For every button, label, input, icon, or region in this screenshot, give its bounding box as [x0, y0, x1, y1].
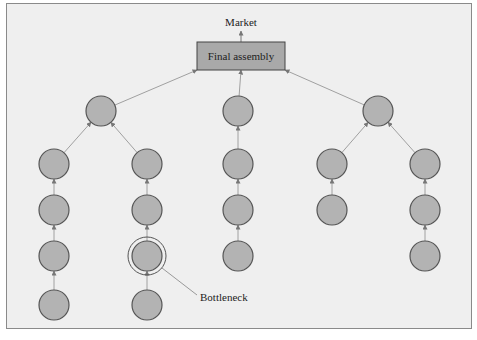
process-node	[223, 96, 253, 126]
edge-arrow	[388, 122, 415, 153]
edge-arrow	[115, 70, 197, 105]
process-node	[132, 149, 162, 179]
edge-arrow	[285, 70, 364, 105]
process-node	[39, 290, 69, 320]
bottleneck-node	[132, 241, 162, 271]
bottleneck-label: Bottleneck	[200, 291, 248, 303]
process-node	[410, 149, 440, 179]
process-node	[223, 241, 253, 271]
process-node	[223, 195, 253, 225]
process-node	[317, 195, 347, 225]
market-label: Market	[225, 16, 257, 28]
bottleneck-leader-line	[162, 268, 197, 295]
process-node	[223, 149, 253, 179]
process-node	[132, 195, 162, 225]
assembly-tree-diagram: Market Final assembly Bottleneck	[0, 0, 477, 340]
process-node	[132, 290, 162, 320]
edge-arrow	[64, 122, 91, 153]
nodes	[39, 96, 440, 320]
process-node	[410, 195, 440, 225]
edge-arrow	[111, 122, 137, 152]
edge-arrow	[239, 70, 241, 96]
process-node	[410, 241, 440, 271]
process-node	[39, 241, 69, 271]
edge-arrow	[342, 122, 368, 152]
process-node	[39, 149, 69, 179]
final-assembly-label: Final assembly	[208, 50, 275, 62]
process-node	[86, 96, 116, 126]
process-node	[317, 149, 347, 179]
process-node	[363, 96, 393, 126]
process-node	[39, 195, 69, 225]
